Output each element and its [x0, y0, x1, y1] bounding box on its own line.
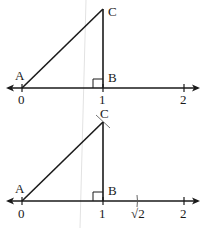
- point-label-C: C: [100, 106, 109, 121]
- hypotenuse-AC: [22, 9, 103, 88]
- top-figure: A B C 0 1 2: [6, 4, 200, 107]
- tick-label-1: 1: [99, 92, 106, 107]
- tick-label-2: 2: [180, 92, 187, 107]
- point-label-B: B: [108, 183, 117, 198]
- right-angle-mark: [93, 79, 103, 88]
- point-label-C: C: [108, 4, 117, 19]
- page-crease: [80, 0, 86, 228]
- tick-label-sqrt2: √2: [131, 206, 145, 221]
- tick-label-0: 0: [18, 92, 25, 107]
- bottom-figure: A B C 0 1 √2 2: [6, 106, 200, 221]
- tick-label-0: 0: [18, 206, 25, 221]
- point-label-A: A: [15, 181, 25, 196]
- tick-label-2: 2: [180, 206, 187, 221]
- diagram-canvas: A B C 0 1 2 A B C 0 1 √2 2: [0, 0, 206, 228]
- point-label-A: A: [15, 68, 25, 83]
- hypotenuse-AC: [22, 122, 103, 201]
- tick-label-1: 1: [99, 206, 106, 221]
- point-label-B: B: [108, 70, 117, 85]
- right-angle-mark: [93, 192, 103, 201]
